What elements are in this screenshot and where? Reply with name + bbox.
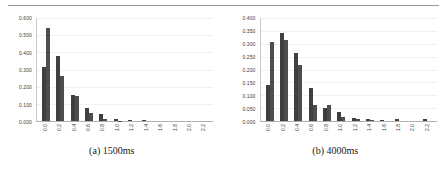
- x-tick-label-wrap: 0.2: [52, 124, 66, 142]
- plot-area-a: [36, 18, 213, 122]
- x-tick-label: 1.4: [144, 124, 149, 131]
- bar: [395, 119, 399, 121]
- bar: [75, 96, 79, 121]
- bar-group: [168, 18, 182, 121]
- x-tick-label: 1.0: [115, 124, 120, 131]
- x-tick-label-wrap: 0.4: [67, 124, 81, 142]
- bar: [284, 40, 288, 121]
- bar-group: [291, 18, 305, 121]
- x-tick-label: 1.4: [367, 124, 372, 131]
- bar: [298, 65, 302, 121]
- x-tick-label-wrap: 1.0: [110, 124, 124, 142]
- x-tick-label: 2.2: [425, 124, 430, 131]
- y-tick-label: 0.050: [242, 106, 255, 112]
- bar-group: [182, 18, 196, 121]
- y-tick-label: 0.100: [19, 102, 32, 108]
- x-tick-label: 0.6: [86, 124, 91, 131]
- x-axis-labels-a: 0.00.20.40.60.81.01.21.41.61.82.02.2: [36, 124, 213, 142]
- x-tick-label-wrap: 0.6: [305, 124, 319, 142]
- y-tick-label: 0.400: [242, 15, 255, 21]
- caption-a: (a) 1500ms: [0, 145, 224, 156]
- x-tick-label: 1.8: [173, 124, 178, 131]
- x-tick-label-wrap: 1.2: [125, 124, 139, 142]
- x-tick-label: 0.4: [72, 124, 77, 131]
- chart-b: 0.0000.0500.1000.1500.2000.2500.3000.350…: [224, 12, 447, 140]
- x-tick-label-wrap: 1.4: [139, 124, 153, 142]
- x-tick-label: 2.0: [187, 124, 192, 131]
- x-tick-label-wrap: 1.4: [362, 124, 376, 142]
- x-tick-label: 2.2: [201, 124, 206, 131]
- x-tick-label-wrap: 1.8: [391, 124, 405, 142]
- y-axis-labels-a: 0.0000.1000.2000.3000.4000.5000.600: [0, 18, 34, 122]
- top-rule-divider: [8, 5, 439, 6]
- bar-group: [348, 18, 362, 121]
- x-tick-label-wrap: 1.6: [377, 124, 391, 142]
- bar: [89, 113, 93, 121]
- x-tick-label-wrap: 1.6: [153, 124, 167, 142]
- bar-group: [82, 18, 96, 121]
- bar-group: [406, 18, 420, 121]
- x-tick-label-wrap: 0.0: [262, 124, 276, 142]
- bar: [356, 119, 360, 121]
- bar-group: [154, 18, 168, 121]
- x-tick-label-wrap: 2.2: [420, 124, 434, 142]
- x-tick-label-wrap: 2.0: [406, 124, 420, 142]
- panel-b: 0.0000.0500.1000.1500.2000.2500.3000.350…: [224, 9, 447, 169]
- chart-a: 0.0000.1000.2000.3000.4000.5000.600 0.00…: [0, 12, 223, 140]
- bar: [46, 28, 50, 121]
- x-tick-label: 0.0: [266, 124, 271, 131]
- x-tick-label-wrap: 2.2: [197, 124, 211, 142]
- bar: [327, 105, 331, 121]
- bar-group: [197, 18, 211, 121]
- x-tick-label: 0.6: [309, 124, 314, 131]
- x-tick-label: 1.2: [353, 124, 358, 131]
- caption-b: (b) 4000ms: [224, 145, 447, 156]
- bar-group: [39, 18, 53, 121]
- bar: [60, 76, 64, 121]
- bar-group: [277, 18, 291, 121]
- y-tick-label: 0.000: [242, 119, 255, 125]
- y-tick-label: 0.300: [19, 67, 32, 73]
- x-tick-label: 0.0: [43, 124, 48, 131]
- x-tick-label: 0.8: [100, 124, 105, 131]
- x-tick-label: 1.8: [396, 124, 401, 131]
- bar-group: [420, 18, 434, 121]
- y-tick-label: 0.000: [19, 119, 32, 125]
- bar-group: [96, 18, 110, 121]
- bar: [128, 120, 132, 121]
- bar-group: [68, 18, 82, 121]
- y-tick-label: 0.200: [19, 84, 32, 90]
- y-tick-label: 0.250: [242, 54, 255, 60]
- bar-group: [53, 18, 67, 121]
- x-axis-labels-b: 0.00.20.40.60.81.01.21.41.61.82.02.2: [260, 124, 437, 142]
- bar-group: [139, 18, 153, 121]
- x-tick-label-wrap: 1.2: [348, 124, 362, 142]
- x-tick-label: 0.4: [295, 124, 300, 131]
- figure-container: 0.0000.1000.2000.3000.4000.5000.600 0.00…: [0, 0, 447, 169]
- x-tick-label: 0.2: [57, 124, 62, 131]
- x-tick-label-wrap: 2.0: [182, 124, 196, 142]
- y-tick-label: 0.300: [242, 41, 255, 47]
- bar: [341, 117, 345, 121]
- x-tick-label-wrap: 0.8: [96, 124, 110, 142]
- bar-series-a: [37, 18, 213, 121]
- bar: [380, 120, 384, 121]
- bar-series-b: [261, 18, 437, 121]
- bar-group: [391, 18, 405, 121]
- x-tick-label: 1.6: [158, 124, 163, 131]
- bar: [270, 42, 274, 121]
- x-tick-label: 1.2: [129, 124, 134, 131]
- y-tick-label: 0.600: [19, 15, 32, 21]
- bar-group: [377, 18, 391, 121]
- bar: [370, 120, 374, 121]
- y-tick-label: 0.100: [242, 93, 255, 99]
- bar: [313, 105, 317, 121]
- x-tick-label: 1.6: [382, 124, 387, 131]
- y-tick-label: 0.200: [242, 67, 255, 73]
- y-tick-label: 0.350: [242, 28, 255, 34]
- bar-group: [111, 18, 125, 121]
- bar-group: [334, 18, 348, 121]
- bar-group: [263, 18, 277, 121]
- x-tick-label-wrap: 0.4: [290, 124, 304, 142]
- bar-group: [125, 18, 139, 121]
